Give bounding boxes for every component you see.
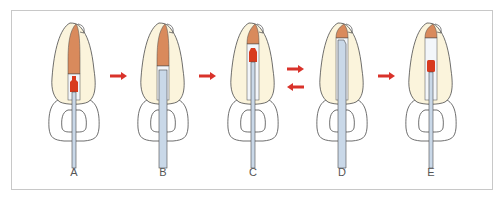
wide-instrument — [338, 40, 346, 168]
panel-label-a: A — [64, 166, 84, 178]
arrow-right-icon — [378, 72, 395, 80]
heated-plug — [249, 48, 257, 62]
panel-c — [228, 23, 278, 168]
heated-plug — [427, 60, 435, 72]
panel-a — [49, 23, 99, 168]
arrow-right-icon — [287, 65, 304, 73]
panel-label-e: E — [421, 166, 441, 178]
arrow-right-icon — [199, 72, 216, 80]
arrow-left-icon — [287, 83, 304, 91]
panel-label-b: B — [153, 166, 173, 178]
thin-instrument — [429, 72, 433, 168]
thin-instrument — [251, 62, 255, 168]
thin-instrument — [72, 92, 76, 168]
panel-b — [138, 23, 188, 168]
panel-label-c: C — [243, 166, 263, 178]
panel-e — [406, 23, 456, 168]
panel-label-d: D — [332, 166, 352, 178]
panel-d — [317, 23, 367, 168]
arrow-right-icon — [110, 72, 127, 80]
wide-instrument — [159, 70, 167, 168]
